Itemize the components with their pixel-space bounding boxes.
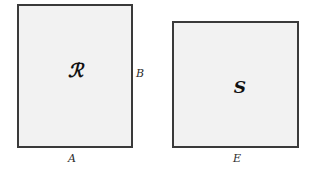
region-label-r: ℛ [57, 61, 95, 80]
side-label-b: B [133, 68, 147, 79]
region-label-s: S [222, 79, 258, 96]
side-label-a: A [62, 153, 82, 164]
side-label-e: E [227, 153, 247, 164]
figure-canvas: ℛ B A S E [0, 0, 315, 173]
